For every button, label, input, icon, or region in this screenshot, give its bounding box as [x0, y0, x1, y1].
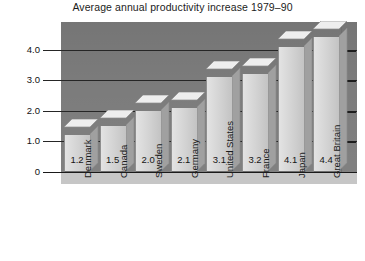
- chart-container: Average annual productivity increase 197…: [0, 0, 365, 261]
- category-label-canada: Canada: [118, 98, 130, 178]
- bar-top-face: [206, 61, 240, 69]
- category-label-denmark: Denmark: [82, 98, 94, 178]
- category-label-france: France: [260, 98, 272, 178]
- bar-top-face: [278, 31, 312, 39]
- category-label-great-britain: Great Britain: [331, 98, 343, 178]
- category-label-germany: Germany: [189, 98, 201, 178]
- bar-top-face: [242, 58, 276, 66]
- bar-series: 1.21.52.02.13.13.24.14.4: [0, 0, 365, 261]
- category-label-japan: Japan: [296, 98, 308, 178]
- category-label-sweden: Sweden: [153, 98, 165, 178]
- bar-top-face: [313, 21, 347, 29]
- category-label-united-states: United States: [224, 98, 236, 178]
